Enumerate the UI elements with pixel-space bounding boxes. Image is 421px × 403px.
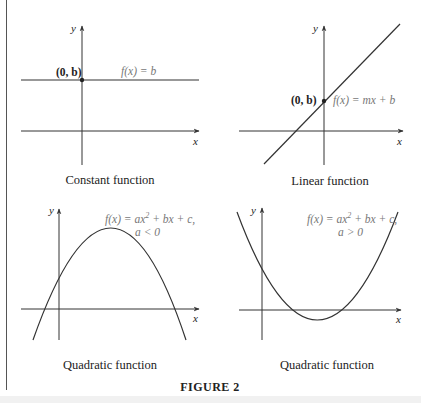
- point-label: (0, b): [56, 66, 82, 78]
- equation-label: f(x) = ax2 + bx + c,: [307, 211, 397, 225]
- point-label: (0, b): [291, 94, 317, 106]
- equation-label: f(x) = ax2 + bx + c,: [105, 211, 195, 225]
- quadratic-positive-graph: [237, 208, 401, 340]
- caption-linear: Linear function: [291, 174, 368, 189]
- y-axis-label: y: [71, 22, 76, 34]
- figure-graphics: [0, 0, 421, 403]
- parabola-up: [237, 212, 398, 320]
- constant-function-graph: [21, 26, 199, 165]
- condition-label: a > 0: [338, 226, 363, 238]
- condition-label: a < 0: [135, 226, 160, 238]
- y-axis-label: y: [251, 204, 256, 216]
- equation-label: f(x) = mx + b: [333, 94, 395, 106]
- equation-label: f(x) = b: [121, 65, 156, 77]
- x-axis-label: x: [193, 135, 198, 147]
- parabola-down: [33, 228, 186, 340]
- y-intercept-point: [322, 99, 326, 103]
- y-axis-label: y: [313, 22, 318, 34]
- y-intercept-point: [80, 78, 84, 82]
- figure-number: FIGURE 2: [180, 380, 240, 395]
- quadratic-negative-graph: [21, 209, 199, 340]
- caption-quadratic-positive: Quadratic function: [280, 358, 374, 373]
- x-axis-label: x: [397, 135, 402, 147]
- caption-constant: Constant function: [65, 173, 154, 188]
- y-axis-label: y: [49, 204, 54, 216]
- x-axis-label: x: [193, 312, 198, 324]
- x-axis-label: x: [396, 313, 401, 325]
- caption-quadratic-negative: Quadratic function: [63, 358, 157, 373]
